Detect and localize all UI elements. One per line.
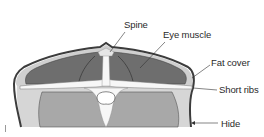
short-ribs-leader-line (193, 88, 217, 90)
label-fat-cover: Fat cover (211, 58, 250, 68)
carcass-cross-section-diagram: Spine Eye muscle Fat cover Short ribs Hi… (0, 0, 264, 137)
label-hide: Hide (221, 119, 240, 129)
edge-mark (5, 125, 6, 132)
spinous-process (102, 55, 110, 86)
label-eye-muscle: Eye muscle (163, 30, 211, 40)
spinal-canal (97, 92, 115, 104)
label-short-ribs: Short ribs (219, 85, 259, 95)
label-spine: Spine (124, 20, 148, 30)
fat-cover-leader-line (192, 65, 210, 78)
